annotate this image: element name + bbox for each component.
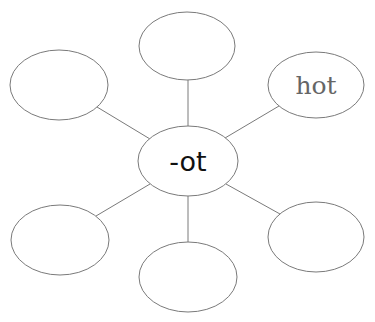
spoke-lower-right [226, 184, 280, 214]
bubble-lower-left[interactable] [11, 205, 109, 275]
bubble-upper-left[interactable] [10, 50, 108, 120]
bubble-lower-right[interactable] [268, 202, 364, 272]
spoke-upper-right [225, 106, 279, 138]
center-label: -ot [169, 146, 206, 177]
spoke-upper-left [97, 107, 150, 139]
spoke-lower-left [96, 184, 150, 216]
bubble-top[interactable] [139, 12, 235, 80]
bubble-bottom[interactable] [139, 242, 237, 312]
upper-right-label: hot [295, 71, 336, 100]
word-web-diagram: -ot hot [0, 0, 375, 322]
